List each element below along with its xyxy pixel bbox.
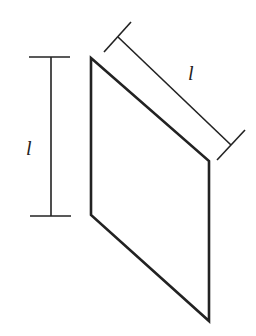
slanted-dimension (104, 22, 245, 160)
parallelogram-shape (91, 58, 209, 321)
diagram-canvas: l l (0, 0, 256, 336)
vertical-side-label: l (26, 137, 32, 159)
diagram-svg: l l (0, 0, 256, 336)
vertical-dimension (29, 57, 71, 216)
slanted-side-label: l (188, 62, 194, 84)
